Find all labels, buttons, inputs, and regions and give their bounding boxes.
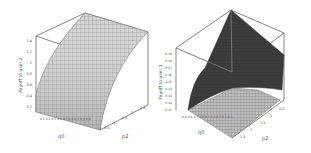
svg-text:1.4: 1.4 (26, 39, 32, 43)
x-label-right: q0 (198, 129, 204, 136)
z-label-left: Payoff to user 2 (18, 57, 23, 92)
right-surface-plot: 0.49 0.48 0.47 0.46 0.45 0.44 0.43 0.42 … (158, 10, 285, 142)
svg-text:1: 1 (30, 61, 32, 65)
svg-text:1.5: 1.5 (260, 121, 266, 125)
svg-text:0.1 0.2 0.3 0.4 0.5 0.6 0.7 0.: 0.1 0.2 0.3 0.4 0.5 0.6 0.7 0.8 0.9 (40, 117, 91, 121)
svg-text:0.48: 0.48 (165, 59, 172, 63)
svg-text:0.5: 0.5 (279, 107, 285, 111)
svg-text:1.5: 1.5 (122, 116, 128, 120)
svg-text:0.44: 0.44 (165, 87, 172, 91)
svg-text:1: 1 (270, 114, 272, 118)
svg-text:0.46: 0.46 (165, 73, 172, 77)
svg-text:0.49: 0.49 (165, 52, 172, 56)
x-axis-left: 0.1 0.2 0.3 0.4 0.5 0.6 0.7 0.8 0.9 q0 (40, 117, 91, 140)
svg-text:0.9 0.8 0.7 0.6 0.5 0.4 0.3 0.: 0.9 0.8 0.7 0.6 0.5 0.4 0.3 0.2 0.1 (182, 115, 233, 119)
left-surface-plot: 1.4 1.2 1 0.8 0.6 0.4 0.2 Payoff to user… (18, 13, 148, 140)
svg-text:0.5: 0.5 (104, 126, 110, 130)
z-axis-left: 1.4 1.2 1 0.8 0.6 0.4 0.2 Payoff to user… (18, 39, 33, 109)
surface-plots: 1.4 1.2 1 0.8 0.6 0.4 0.2 Payoff to user… (0, 0, 311, 153)
svg-text:2: 2 (131, 111, 133, 115)
svg-text:0.8: 0.8 (26, 72, 32, 76)
svg-text:0.47: 0.47 (165, 66, 172, 70)
svg-text:2.5: 2.5 (140, 106, 146, 110)
svg-text:2.5: 2.5 (240, 135, 246, 139)
svg-text:1.2: 1.2 (26, 50, 32, 54)
svg-text:0.45: 0.45 (165, 80, 172, 84)
svg-text:0.6: 0.6 (26, 83, 32, 87)
z-axis-right: 0.49 0.48 0.47 0.46 0.45 0.44 0.43 0.42 … (158, 52, 172, 112)
y-axis-left: 0.5 1 1.5 2 2.5 p2 (104, 106, 146, 140)
x-label-left: q0 (58, 133, 64, 140)
svg-text:0.4: 0.4 (26, 94, 32, 98)
y-label-left: p2 (122, 133, 128, 140)
svg-text:1: 1 (113, 121, 115, 125)
figure: 1.4 1.2 1 0.8 0.6 0.4 0.2 Payoff to user… (0, 0, 311, 153)
svg-text:0.42: 0.42 (165, 101, 172, 105)
svg-text:0.2: 0.2 (26, 105, 32, 109)
svg-text:2: 2 (250, 128, 252, 132)
svg-text:0.43: 0.43 (165, 94, 172, 98)
y-label-right: p2 (262, 135, 268, 142)
z-label-right: Payoff to user 1 (158, 64, 163, 99)
svg-text:0.41: 0.41 (165, 108, 172, 112)
